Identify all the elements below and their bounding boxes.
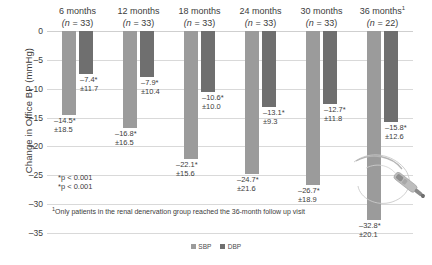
bar-value-label: –22.1*±15.6	[176, 160, 198, 178]
y-axis-tick-label: –30	[29, 199, 43, 209]
bar-dbp	[201, 31, 215, 92]
bar-value-label: –16.8*±16.5	[115, 129, 137, 147]
legend-label: DBP	[228, 243, 241, 250]
bar-group: 12 months(n = 33)–16.8*±16.5–7.9*±10.4	[108, 31, 169, 233]
bar-value-label: –7.4*±11.7	[80, 75, 98, 93]
bar-value-label: –13.1*±9.3	[263, 108, 285, 126]
bar-mean-value: –12.7*	[324, 105, 346, 114]
bar-sbp	[123, 31, 137, 128]
bar-sd-value: ±10.0	[202, 102, 224, 111]
bar-mean-value: –16.8*	[115, 129, 137, 138]
bar-dbp	[262, 31, 276, 107]
category-name: 6 months	[59, 6, 96, 18]
category-name: 24 months	[239, 6, 281, 18]
bar-mean-value: –7.9*	[141, 78, 160, 87]
category-label: 30 months(n = 33)	[300, 6, 342, 31]
sample-size-label: (n = 33)	[239, 18, 281, 30]
bar-mean-value: –14.5*	[54, 116, 76, 125]
bar-group: 36 months1(n = 22)–32.8*±20.1–15.8*±12.6	[352, 31, 413, 233]
bar-value-label: –12.7*±11.8	[324, 105, 346, 123]
y-axis-tick-label: –35	[29, 228, 43, 238]
y-axis-tick-label: 0	[38, 26, 43, 36]
bar-mean-value: –22.1*	[176, 160, 198, 169]
bar-sd-value: ±10.4	[141, 87, 160, 96]
legend-item-dbp[interactable]: DBP	[220, 243, 241, 250]
bar-mean-value: –32.8*	[359, 221, 381, 230]
bar-mean-value: –26.7*	[298, 186, 320, 195]
legend-label: SBP	[198, 243, 211, 250]
legend-swatch	[220, 244, 225, 249]
bar-sd-value: ±21.6	[237, 184, 259, 193]
legend-swatch	[191, 244, 196, 249]
y-axis-tick-label: –15	[29, 113, 43, 123]
bar-dbp	[384, 31, 398, 122]
bar-dbp	[323, 31, 337, 104]
y-axis-tick-label: –10	[29, 84, 43, 94]
legend-item-sbp[interactable]: SBP	[191, 243, 212, 250]
bar-mean-value: –10.6*	[202, 93, 224, 102]
bar-group: 24 months(n = 33)–24.7*±21.6–13.1*±9.3	[230, 31, 291, 233]
bar-sd-value: ±11.8	[324, 114, 346, 123]
sample-size-label: (n = 33)	[300, 18, 342, 30]
bar-value-label: –32.8*±20.1	[359, 221, 381, 239]
bar-group: 6 months(n = 33)–14.5*±18.5–7.4*±11.7	[47, 31, 108, 233]
bar-sd-value: ±18.9	[298, 195, 320, 204]
category-name: 30 months	[300, 6, 342, 18]
sample-size-label: (n = 33)	[117, 18, 159, 30]
bar-sd-value: ±15.6	[176, 169, 198, 178]
sample-size-label: (n = 33)	[59, 18, 96, 30]
bar-sd-value: ±18.5	[54, 125, 76, 134]
bar-value-label: –10.6*±10.0	[202, 93, 224, 111]
bar-sd-value: ±9.3	[263, 117, 285, 126]
category-label: 12 months(n = 33)	[117, 6, 159, 31]
bar-sd-value: ±12.6	[385, 132, 407, 141]
category-label: 24 months(n = 33)	[239, 6, 281, 31]
chart-legend: SBPDBP	[0, 243, 432, 250]
plot-area: 0–5–10–15–20–25–30–356 months(n = 33)–14…	[47, 31, 413, 233]
bar-value-label: –14.5*±18.5	[54, 116, 76, 134]
y-axis-tick-label: –20	[29, 141, 43, 151]
bar-mean-value: –7.4*	[80, 75, 98, 84]
bar-dbp	[79, 31, 93, 74]
bar-dbp	[140, 31, 154, 77]
category-label: 6 months(n = 33)	[59, 6, 96, 31]
category-label: 36 months1(n = 22)	[360, 3, 405, 31]
category-name: 18 months	[178, 6, 220, 18]
bar-value-label: –26.7*±18.9	[298, 186, 320, 204]
footnote-text: Only patients in the renal denervation g…	[55, 208, 305, 215]
category-footnote-marker: 1	[402, 5, 405, 11]
bar-sd-value: ±20.1	[359, 230, 381, 239]
chart-footnote: 1Only patients in the renal denervation …	[52, 206, 305, 215]
bar-mean-value: –15.8*	[385, 123, 407, 132]
bar-mean-value: –24.7*	[237, 175, 259, 184]
bar-value-label: –7.9*±10.4	[141, 78, 160, 96]
bar-sd-value: ±11.7	[80, 84, 98, 93]
bar-sbp	[245, 31, 259, 174]
sample-size-label: (n = 33)	[178, 18, 220, 30]
significance-note-2: *p < 0.001	[58, 182, 92, 192]
y-axis-tick-label: –5	[34, 55, 43, 65]
bar-mean-value: –13.1*	[263, 108, 285, 117]
bar-sbp	[184, 31, 198, 159]
bar-value-label: –15.8*±12.6	[385, 123, 407, 141]
category-name: 12 months	[117, 6, 159, 18]
y-axis-tick-label: –25	[29, 170, 43, 180]
bar-chart: Change in Office BP (mmHg) 0–5–10–15–20–…	[0, 0, 432, 265]
bar-sbp	[367, 31, 381, 220]
category-name: 36 months1	[360, 3, 405, 18]
bar-group: 30 months(n = 33)–26.7*±18.9–12.7*±11.8	[291, 31, 352, 233]
bar-sbp	[306, 31, 320, 185]
sample-size-label: (n = 22)	[360, 18, 405, 30]
bar-sbp	[62, 31, 76, 115]
category-label: 18 months(n = 33)	[178, 6, 220, 31]
bar-group: 18 months(n = 33)–22.1*±15.6–10.6*±10.0	[169, 31, 230, 233]
bar-sd-value: ±16.5	[115, 138, 137, 147]
bar-value-label: –24.7*±21.6	[237, 175, 259, 193]
